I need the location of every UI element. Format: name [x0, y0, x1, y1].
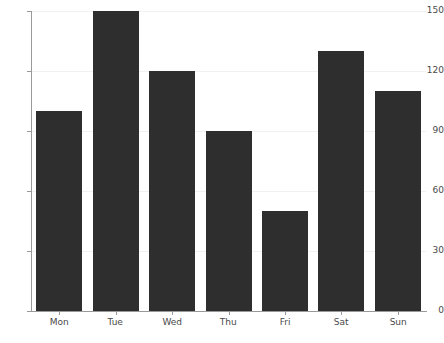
- x-tick-mark: [398, 311, 399, 315]
- y-tick-label: 90: [420, 126, 444, 135]
- y-tick-mark: [27, 71, 31, 72]
- x-tick-label-fri: Fri: [257, 318, 313, 327]
- gridline: [31, 71, 426, 72]
- x-tick-label-sat: Sat: [313, 318, 369, 327]
- x-tick-mark: [172, 311, 173, 315]
- x-tick-label-thu: Thu: [200, 318, 256, 327]
- bar-wed: [149, 71, 195, 311]
- y-axis-line: [31, 11, 32, 311]
- bar-chart: 0306090120150 MonTueWedThuFriSatSun: [0, 0, 444, 343]
- x-tick-mark: [59, 311, 60, 315]
- x-tick-mark: [229, 311, 230, 315]
- y-tick-mark: [27, 251, 31, 252]
- bar-sun: [375, 91, 421, 311]
- x-tick-label-sun: Sun: [370, 318, 426, 327]
- y-tick-label: 150: [420, 6, 444, 15]
- x-tick-mark: [341, 311, 342, 315]
- bar-thu: [206, 131, 252, 311]
- bar-fri: [262, 211, 308, 311]
- y-tick-label: 60: [420, 186, 444, 195]
- y-tick-label: 30: [420, 246, 444, 255]
- bar-sat: [318, 51, 364, 311]
- plot-area: [31, 11, 426, 311]
- x-tick-mark: [285, 311, 286, 315]
- y-tick-mark: [27, 131, 31, 132]
- gridline: [31, 11, 426, 12]
- x-tick-label-tue: Tue: [87, 318, 143, 327]
- y-tick-mark: [27, 11, 31, 12]
- y-tick-mark: [27, 311, 31, 312]
- y-tick-mark: [27, 191, 31, 192]
- y-tick-label: 120: [420, 66, 444, 75]
- bar-mon: [36, 111, 82, 311]
- x-tick-label-mon: Mon: [31, 318, 87, 327]
- x-tick-label-wed: Wed: [144, 318, 200, 327]
- bar-tue: [93, 11, 139, 311]
- y-tick-label: 0: [420, 306, 444, 315]
- x-tick-mark: [116, 311, 117, 315]
